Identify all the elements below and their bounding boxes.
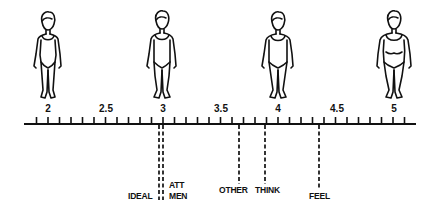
tick-label-4-5: 4.5 [330, 104, 344, 114]
tick-label-2-5: 2.5 [99, 104, 113, 114]
marker-label-ideal: IDEAL [128, 192, 153, 201]
tick-label-5: 5 [391, 104, 397, 114]
marker-label-other: OTHER [219, 186, 248, 195]
figure-rating-diagram: 2 2.5 3 3.5 4 4.5 5 IDEAL ATT MEN OTHER … [0, 0, 436, 207]
tick-label-2: 2 [45, 104, 51, 114]
marker-label-att: ATT [169, 181, 184, 190]
marker-label-think: THINK [255, 186, 280, 195]
marker-label-men: MEN [169, 192, 187, 201]
tick-label-3-5: 3.5 [214, 104, 228, 114]
tick-label-4: 4 [275, 104, 281, 114]
tick-label-3: 3 [160, 104, 166, 114]
marker-label-feel: FEEL [309, 192, 330, 201]
